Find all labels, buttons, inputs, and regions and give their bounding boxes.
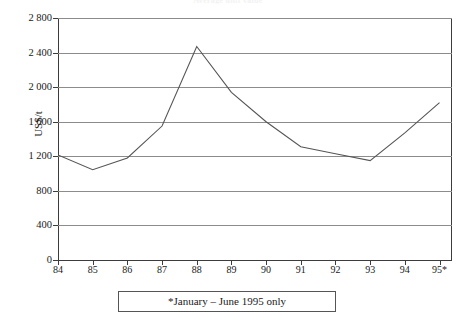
y-tick-label-800: 800 bbox=[10, 186, 52, 196]
footnote-box: *January – June 1995 only bbox=[118, 291, 336, 312]
y-tick-label-400: 400 bbox=[10, 220, 52, 230]
y-tick-label-1600: 1 600 bbox=[10, 117, 52, 127]
chart-title: Average unit value bbox=[0, 0, 456, 4]
data-series-line bbox=[58, 18, 452, 260]
y-tick-label-1200: 1 200 bbox=[10, 151, 52, 161]
y-tick-label-2000: 2 000 bbox=[10, 82, 52, 92]
y-tick-label-2400: 2 400 bbox=[10, 48, 52, 58]
y-tick-label-2800: 2 800 bbox=[10, 13, 52, 23]
chart-container: Average unit value US$/t 04008001 2001 6… bbox=[0, 0, 456, 325]
plot-area bbox=[58, 18, 452, 260]
x-axis-tick-labels: 848586878889909192939495* bbox=[0, 264, 456, 278]
x-tick-label-95star: 95* bbox=[420, 264, 456, 275]
gridline-0 bbox=[58, 260, 452, 261]
